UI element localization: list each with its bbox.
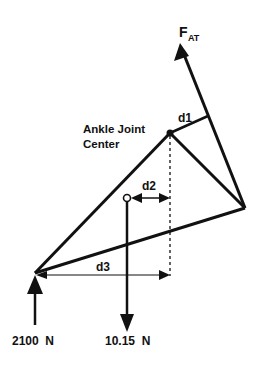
free-body-diagram: F AT d1 Ankle Joint Center d2 d3 2100 N … (0, 0, 266, 365)
ground-force-label: 2100 N (12, 334, 54, 348)
center-of-mass-marker (124, 195, 131, 202)
arrowhead-icon (27, 275, 43, 294)
foot-segment (35, 133, 245, 273)
force-achilles-label: F (179, 24, 188, 40)
force-achilles-subscript: AT (188, 33, 200, 43)
d2-dimension-arrow (131, 193, 170, 203)
weight-force-arrow (120, 201, 134, 332)
arrowhead-icon (120, 314, 134, 332)
weight-force-label: 10.15 N (105, 334, 150, 348)
d3-label: d3 (96, 260, 110, 274)
ankle-joint-center-label-line1: Ankle Joint (83, 123, 145, 135)
d2-label: d2 (142, 179, 156, 193)
joint-to-heel-edge (170, 133, 245, 208)
d1-label: d1 (178, 111, 192, 125)
ankle-joint-center-dot (167, 130, 174, 137)
ankle-joint-center-label-line2: Center (83, 138, 120, 150)
ground-reaction-force-arrow (27, 275, 43, 325)
